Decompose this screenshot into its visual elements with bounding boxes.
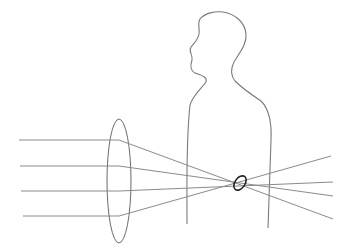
incoming-rays [19,140,119,216]
converging-ray-2 [119,166,333,196]
converging-rays [119,140,333,219]
diagram-canvas [0,0,351,249]
converging-ray-3 [119,182,333,191]
human-silhouette [187,12,271,228]
lens-shape [107,119,131,243]
diagram-svg [0,0,351,249]
